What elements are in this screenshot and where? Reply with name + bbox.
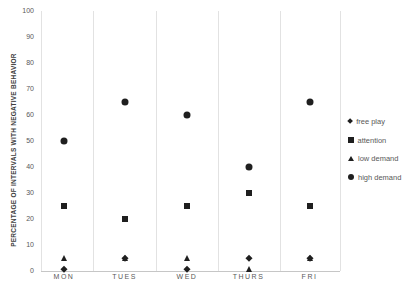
y-tick-label: 50 [10, 137, 34, 145]
x-tick-label: WED [159, 273, 215, 281]
marker-high-demand-THURS [245, 163, 252, 170]
legend: free play attention low demand high dema… [348, 116, 401, 190]
scatter-chart: PERCENTAGE OF INTERVALS WITH NEGATIVE BE… [0, 0, 406, 286]
marker-low-demand-FRI [307, 255, 313, 261]
column-gridline [280, 11, 281, 271]
marker-high-demand-MON [61, 137, 68, 144]
column-gridline [156, 11, 157, 271]
x-tick-label: THURS [221, 273, 277, 281]
marker-high-demand-TUES [121, 98, 128, 105]
y-tick-label: 80 [10, 59, 34, 67]
y-tick-label: 30 [10, 189, 34, 197]
marker-attention-THURS [246, 190, 252, 196]
marker-free-play-THURS [245, 254, 251, 260]
column-gridline [340, 11, 341, 271]
y-tick-label: 100 [10, 7, 34, 15]
x-axis-line [41, 271, 340, 272]
triangle-icon [348, 156, 354, 161]
legend-item-attention: attention [348, 135, 401, 146]
marker-attention-MON [61, 203, 67, 209]
marker-high-demand-WED [184, 111, 191, 118]
legend-label: attention [358, 136, 387, 145]
marker-low-demand-WED [184, 255, 190, 261]
circle-icon [348, 174, 354, 180]
marker-attention-TUES [122, 216, 128, 222]
column-gridline [41, 11, 42, 271]
legend-label: low demand [358, 154, 398, 163]
marker-low-demand-THURS [246, 266, 252, 272]
legend-item-high-demand: high demand [348, 172, 401, 183]
x-tick-label: TUES [97, 273, 153, 281]
square-icon [348, 137, 354, 143]
column-gridline [218, 11, 219, 271]
y-tick-label: 0 [10, 267, 34, 275]
legend-label: high demand [358, 173, 401, 182]
legend-item-low-demand: low demand [348, 153, 401, 164]
marker-low-demand-MON [61, 255, 67, 261]
y-tick-label: 60 [10, 111, 34, 119]
x-tick-label: FRI [282, 273, 338, 281]
y-tick-label: 90 [10, 33, 34, 41]
column-gridline [93, 11, 94, 271]
y-tick-label: 20 [10, 215, 34, 223]
marker-high-demand-FRI [306, 98, 313, 105]
marker-low-demand-TUES [122, 255, 128, 261]
legend-label: free play [356, 117, 385, 126]
y-tick-label: 70 [10, 85, 34, 93]
x-tick-label: MON [36, 273, 92, 281]
diamond-icon [347, 119, 353, 125]
marker-attention-WED [184, 203, 190, 209]
legend-item-free-play: free play [348, 116, 401, 127]
y-tick-label: 10 [10, 241, 34, 249]
marker-attention-FRI [307, 203, 313, 209]
y-tick-label: 40 [10, 163, 34, 171]
